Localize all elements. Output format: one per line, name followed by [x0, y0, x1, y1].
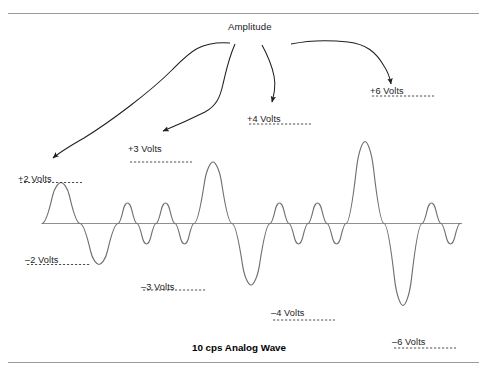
figure-caption: 10 cps Analog Wave [192, 342, 286, 353]
amplitude-leader-lines [20, 96, 456, 348]
voltage-label-pos6: +6 Volts [370, 86, 404, 96]
voltage-label-neg6: –6 Volts [392, 337, 426, 347]
voltage-label-pos2: +2 Volts [18, 174, 52, 184]
arrow-to-pos2 [53, 43, 230, 158]
arrow-to-pos4 [262, 45, 275, 102]
wave-graphic [0, 0, 487, 382]
amplitude-callout-label: Amplitude [228, 22, 272, 32]
arrow-to-pos3 [163, 44, 235, 131]
voltage-label-pos4: +4 Volts [247, 114, 281, 124]
amplitude-callout-arrows [53, 41, 391, 158]
voltage-label-neg2: –2 Volts [25, 255, 59, 265]
voltage-label-neg3: –3 Volts [141, 282, 175, 292]
analog-wave-figure: Amplitude +2 Volts –2 Volts +3 Volts –3 … [0, 0, 487, 382]
arrow-to-pos6 [291, 41, 391, 84]
voltage-label-pos3: +3 Volts [128, 144, 162, 154]
voltage-label-neg4: –4 Volts [271, 308, 305, 318]
